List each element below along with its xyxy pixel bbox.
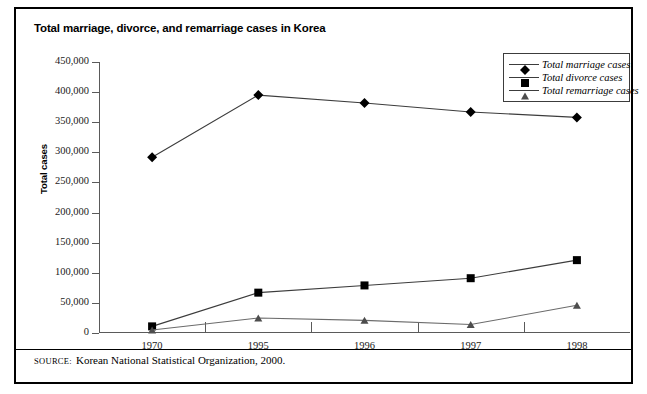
y-tick-label: 350,000 — [55, 115, 89, 126]
legend-label: Total divorce cases — [539, 72, 622, 83]
y-tick-label: 0 — [84, 326, 89, 337]
y-tick-label: 200,000 — [55, 206, 89, 217]
y-tick-label: 300,000 — [55, 145, 89, 156]
source-divider — [16, 349, 631, 350]
y-tick-mark — [92, 213, 99, 214]
figure-frame: Total marriage, divorce, and remarriage … — [14, 7, 633, 384]
y-tick-mark — [92, 92, 99, 93]
diamond-marker — [466, 107, 476, 117]
square-marker — [254, 289, 262, 297]
legend-marker — [509, 59, 539, 71]
legend-item[interactable]: Total divorce cases — [509, 71, 623, 84]
diamond-marker — [253, 90, 263, 100]
y-tick-label: 150,000 — [55, 236, 89, 247]
y-tick-mark — [92, 152, 99, 153]
square-marker — [361, 281, 369, 289]
legend-label: Total remarriage cases — [539, 85, 639, 96]
source-keyword: SOURCE: — [34, 356, 72, 366]
y-tick-mark — [92, 303, 99, 304]
plot-area: 450,000400,000350,000300,000250,000200,0… — [99, 62, 630, 333]
y-tick-label: 100,000 — [55, 266, 89, 277]
y-tick-mark — [92, 243, 99, 244]
source-text: Korean National Statistical Organization… — [76, 354, 285, 366]
diamond-marker — [572, 112, 582, 122]
source-line: SOURCE:Korean National Statistical Organ… — [34, 354, 285, 366]
y-tick-label: 400,000 — [55, 85, 89, 96]
y-tick-mark — [92, 273, 99, 274]
series-plot — [99, 62, 630, 333]
square-marker — [467, 274, 475, 282]
y-tick-mark — [92, 182, 99, 183]
triangle-marker — [521, 92, 529, 99]
diamond-marker — [147, 152, 157, 162]
legend-marker — [509, 85, 539, 97]
legend-marker — [509, 72, 539, 84]
legend-label: Total marriage cases — [539, 59, 630, 70]
square-marker — [573, 256, 581, 264]
y-tick-mark — [92, 122, 99, 123]
y-tick-label: 50,000 — [60, 296, 89, 307]
y-tick-mark — [92, 333, 99, 334]
diamond-marker — [360, 98, 370, 108]
chart-legend: Total marriage casesTotal divorce casesT… — [503, 53, 630, 102]
legend-item[interactable]: Total remarriage cases — [509, 84, 623, 97]
y-tick-label: 250,000 — [55, 175, 89, 186]
chart-title: Total marriage, divorce, and remarriage … — [34, 22, 325, 34]
legend-item[interactable]: Total marriage cases — [509, 58, 623, 71]
y-tick-mark — [92, 62, 99, 63]
y-tick-label: 450,000 — [55, 55, 89, 66]
y-axis-title: Total cases — [38, 144, 49, 194]
triangle-icon — [520, 87, 530, 105]
